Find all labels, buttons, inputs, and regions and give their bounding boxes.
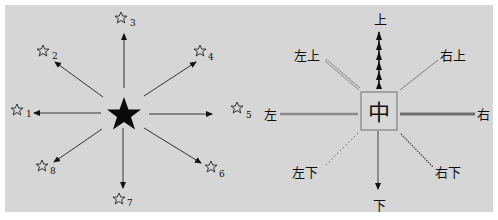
star-number-8: 8 — [50, 166, 56, 176]
star-number-5: 5 — [246, 110, 252, 120]
arrow-to-2 — [55, 62, 103, 97]
label-up-right: 右上 — [440, 48, 466, 63]
star-number-2: 2 — [52, 51, 58, 61]
line-up — [376, 31, 382, 89]
label-down-left: 左下 — [292, 165, 318, 180]
star-number-3: 3 — [130, 18, 136, 28]
label-up: 上 — [374, 12, 387, 27]
left-star-diagram: 1 2 3 4 5 6 7 8 — [11, 12, 252, 208]
label-right: 右 — [477, 107, 490, 122]
filled-star-icon — [107, 97, 141, 130]
star-number-4: 4 — [208, 52, 214, 62]
line-down-right — [401, 134, 433, 167]
direction-diagrams: 1 2 3 4 5 6 7 8 中 — [0, 0, 498, 220]
star-number-6: 6 — [219, 169, 225, 179]
arrow-to-8 — [54, 129, 102, 162]
label-left: 左 — [264, 107, 277, 122]
outline-star-icon-8 — [36, 160, 48, 171]
outline-star-icon-7 — [113, 193, 125, 204]
outline-star-icon-3 — [115, 12, 127, 23]
outline-star-icon-1 — [11, 104, 23, 115]
arrow-to-4 — [144, 62, 196, 96]
label-down-right: 右下 — [435, 165, 461, 180]
label-up-left: 左上 — [294, 48, 320, 63]
line-down-left — [326, 133, 358, 165]
label-down: 下 — [373, 198, 386, 213]
center-label: 中 — [368, 100, 390, 125]
star-number-7: 7 — [127, 198, 133, 208]
outline-star-icon-6 — [205, 161, 217, 172]
line-up-right — [400, 60, 438, 90]
outline-star-icon-2 — [37, 45, 49, 56]
outline-star-icon-4 — [194, 45, 206, 56]
star-number-1: 1 — [26, 109, 32, 119]
line-up-left — [325, 59, 360, 90]
outline-star-icon-5 — [231, 102, 243, 113]
arrow-to-6 — [144, 128, 201, 163]
right-direction-diagram: 中 上 下 左 — [264, 12, 490, 213]
